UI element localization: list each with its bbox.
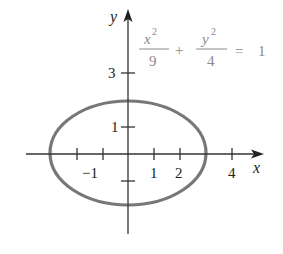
eq-plus: + <box>175 42 183 58</box>
eq-equals: = <box>235 43 243 59</box>
eq-term2-numerator: y <box>200 31 209 47</box>
eq-rhs: 1 <box>258 43 266 59</box>
y-axis-label: y <box>108 8 118 26</box>
eq-term1-numerator: x <box>143 31 151 47</box>
x-tick-label-2: 2 <box>175 165 183 181</box>
x-tick-label-4: 4 <box>228 165 236 181</box>
x-tick-label-neg1: −1 <box>82 165 98 181</box>
eq-term2-exponent: 2 <box>211 26 216 37</box>
ellipse-graph: −1 1 2 4 1 3 x y x 2 9 + y 2 4 = 1 <box>0 0 283 254</box>
eq-term1-exponent: 2 <box>152 26 157 37</box>
y-tick-label-1: 1 <box>111 119 119 135</box>
x-axis-label: x <box>252 159 260 176</box>
eq-term1-denominator: 9 <box>149 53 157 69</box>
y-tick-label-3: 3 <box>108 65 116 81</box>
ellipse-equation: x 2 9 + y 2 4 = 1 <box>139 26 266 69</box>
x-tick-label-1: 1 <box>150 165 158 181</box>
eq-term2-denominator: 4 <box>207 53 215 69</box>
